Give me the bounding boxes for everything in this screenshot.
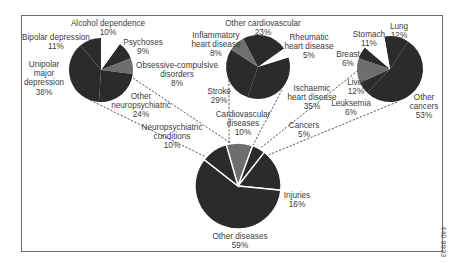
label-other-diseases: Other diseases59% [212,232,267,250]
label-other-neuropsychiatric: Otherneuropsychiatric24% [111,92,171,120]
label-injuries: Injuries16% [284,191,310,209]
label-stomach: Stomach11% [353,30,385,48]
label-inflammatory-heart-disease: Inflammatoryheart disease8% [191,31,240,59]
label-bipolar-depression: Bipolar depression11% [22,33,90,51]
label-cardiovascular-diseases: Cardiovasculardiseases10% [216,110,271,138]
label-rheumatic-heart-disease: Rheumaticheart disease5% [284,33,333,61]
label-other-cancers: Othercancers53% [410,93,439,121]
label-liver: Liver12% [347,78,365,96]
label-stroke: Stroke29% [207,87,231,105]
label-cancers: Cancers5% [289,121,320,139]
pie-all-diseases [195,143,281,229]
label-leuksemia: Leuksemia6% [331,99,371,117]
label-obsessive-compulsive: Obsessive-compulsivedisorders8% [136,61,218,89]
label-psychoses: Psychoses9% [123,38,163,56]
figure-number: 440 9933 [439,226,448,257]
label-ischaemic-heart-disease: Ischaemicheart disease35% [287,84,336,112]
label-unipolar-depression: Unipolarmajordepression38% [24,60,64,97]
label-breast: Breast6% [336,50,360,68]
label-lung: Lung12% [390,22,408,40]
label-neuropsychiatric-conditions: Neuropsychiatricconditions10% [142,123,203,151]
